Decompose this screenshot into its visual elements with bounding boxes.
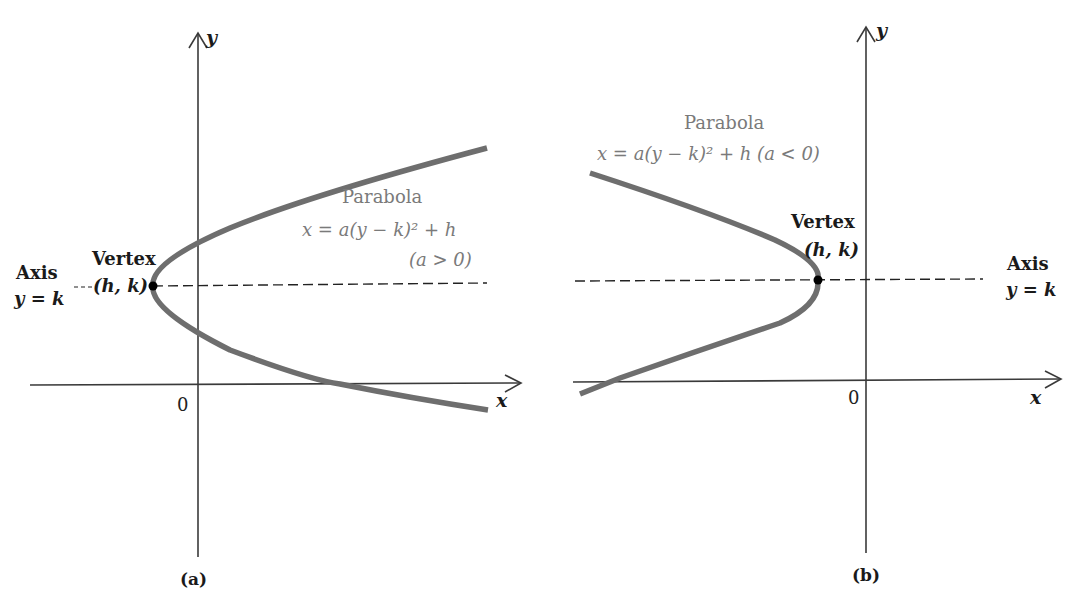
symmetry-axis-a bbox=[153, 283, 487, 286]
curve-title-a: Parabola bbox=[342, 186, 422, 207]
panel-b: y x 0 Parabola x = a(y − k)² + h (a < 0)… bbox=[573, 19, 1061, 585]
x-axis-b bbox=[573, 379, 1061, 382]
origin-label-a: 0 bbox=[177, 394, 188, 415]
axis-label-b: Axis bbox=[1006, 253, 1049, 274]
panel-a: y x 0 Parabola x = a(y − k)² + h (a > 0)… bbox=[13, 26, 521, 589]
vertex-dot-a bbox=[149, 282, 158, 291]
x-axis-label-a: x bbox=[495, 389, 508, 411]
caption-b: (b) bbox=[852, 565, 880, 585]
x-axis-a bbox=[30, 383, 521, 385]
axis-equation-b: y = k bbox=[1005, 279, 1057, 300]
parabola-curve-b bbox=[580, 173, 818, 394]
vertex-dot-b bbox=[814, 276, 823, 285]
equation-a: x = a(y − k)² + h bbox=[302, 219, 456, 240]
y-axis-label-b: y bbox=[875, 19, 889, 41]
x-axis-label-b: x bbox=[1029, 386, 1042, 408]
equation-b: x = a(y − k)² + h (a < 0) bbox=[597, 143, 820, 164]
symmetry-axis-b bbox=[575, 279, 983, 281]
curve-title-b: Parabola bbox=[684, 112, 764, 133]
axis-equation-a: y = k bbox=[13, 288, 65, 309]
y-axis-label-a: y bbox=[205, 26, 219, 48]
caption-a: (a) bbox=[180, 569, 207, 589]
parabola-figure: y x 0 Parabola x = a(y − k)² + h (a > 0)… bbox=[0, 0, 1079, 611]
vertex-label-a: Vertex bbox=[91, 248, 156, 269]
origin-label-b: 0 bbox=[848, 387, 859, 408]
parabola-curve-a bbox=[153, 148, 488, 410]
vertex-label-b: Vertex bbox=[790, 211, 855, 232]
condition-a: (a > 0) bbox=[409, 249, 472, 270]
vertex-coords-a: (h, k) bbox=[93, 275, 148, 296]
vertex-coords-b: (h, k) bbox=[804, 239, 859, 260]
axis-label-a: Axis bbox=[15, 262, 58, 283]
